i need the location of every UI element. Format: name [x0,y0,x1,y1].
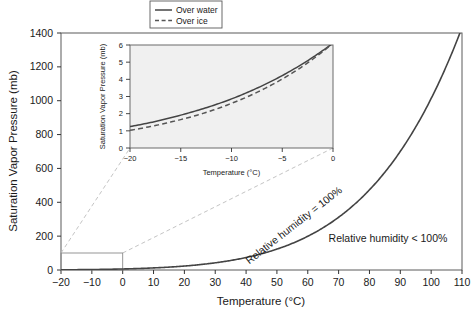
y-tick-label: 1000 [30,94,54,106]
inset-y-tick-label: 4 [119,75,123,84]
inset-y-tick-label: 3 [119,92,123,101]
inset-x-tick-label: −10 [225,154,238,163]
y-tick-label: 200 [35,230,53,242]
main-y-axis: 0 200 400 600 800 1000 1200 1400 [30,27,61,276]
legend-label-over-water[interactable]: Over water [176,5,218,15]
inset-x-tick-label: 0 [331,154,335,163]
y-tick-label: 1200 [30,60,54,72]
inset-x-tick-label: −20 [124,154,137,163]
x-tick-label: 80 [364,276,376,288]
x-tick-label: 30 [209,276,221,288]
x-axis-title: Temperature (°C) [217,295,305,307]
chart-legend: Over water Over ice [150,1,222,28]
inset-x-tick-label: −5 [278,154,287,163]
x-tick-label: 20 [179,276,191,288]
inset-x-tick-label: −15 [174,154,187,163]
x-tick-label: 50 [271,276,283,288]
inset-plot-frame [130,45,333,148]
x-tick-label: −20 [52,276,70,288]
x-tick-label: 40 [240,276,252,288]
y-tick-label: 1400 [30,27,54,39]
inset-y-tick-label: 5 [119,58,123,67]
inset-y-tick-label: 6 [119,41,123,50]
y-tick-label: 600 [35,162,53,174]
y-axis-title: Saturation Vapor Pressure (mb) [7,70,19,232]
inset-y-tick-label: 0 [119,144,123,153]
x-tick-label: 110 [454,276,471,288]
main-x-axis: −20 −10 0 10 20 30 40 50 60 70 80 90 100… [52,270,470,288]
chart-figure: 0 200 400 600 800 1000 1200 1400 −20 [0,0,472,316]
x-tick-label: 100 [422,276,440,288]
y-tick-label: 400 [35,196,53,208]
chart-canvas: 0 200 400 600 800 1000 1200 1400 −20 [0,0,472,316]
x-tick-label: 0 [120,276,126,288]
inset-y-tick-label: 1 [119,127,123,136]
inset-x-axis-title: Temperature (°C) [203,168,261,177]
y-tick-label: 800 [35,128,53,140]
x-tick-label: −10 [83,276,101,288]
y-tick-label: 0 [47,264,53,276]
inset-y-tick-label: 2 [119,109,123,118]
annotation-rh-less-100: Relative humidity < 100% [329,232,448,244]
x-tick-label: 70 [333,276,345,288]
inset-y-axis-title: Saturation Vapor Pressure (mb) [98,43,107,149]
x-tick-label: 60 [302,276,314,288]
legend-label-over-ice[interactable]: Over ice [176,16,208,26]
x-tick-label: 10 [148,276,160,288]
x-tick-label: 90 [394,276,406,288]
